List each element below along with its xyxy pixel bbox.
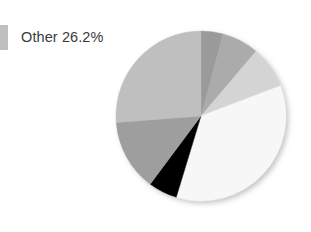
pie-chart-figure: Other 26.2% bbox=[0, 0, 311, 232]
pie-svg bbox=[113, 28, 303, 218]
pie-graphic bbox=[113, 28, 303, 218]
pie-slice-group bbox=[116, 31, 286, 201]
legend-item-label: Other 26.2% bbox=[21, 30, 104, 45]
pie-slice bbox=[116, 31, 201, 122]
legend-swatch-icon bbox=[0, 25, 8, 50]
chart-legend: Other 26.2% bbox=[0, 24, 104, 50]
